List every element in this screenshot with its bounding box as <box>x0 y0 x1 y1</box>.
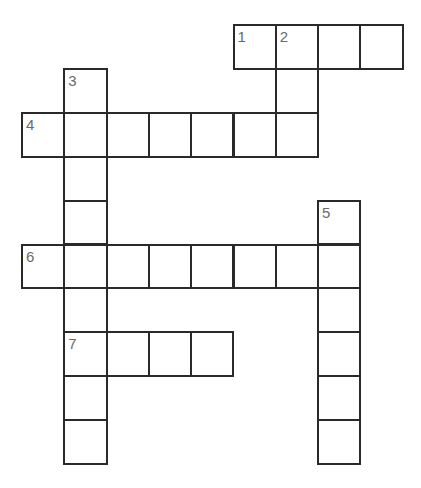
crossword-grid: 1237456 <box>0 0 421 488</box>
clue-number: 4 <box>26 117 34 132</box>
crossword-cell[interactable]: 7 <box>63 331 107 377</box>
crossword-cell[interactable] <box>190 244 234 290</box>
crossword-cell[interactable] <box>190 331 234 377</box>
crossword-cell[interactable] <box>317 331 361 377</box>
clue-number: 6 <box>26 249 34 264</box>
crossword-cell[interactable] <box>317 375 361 421</box>
crossword-cell[interactable] <box>359 24 403 70</box>
crossword-cell[interactable] <box>233 244 277 290</box>
crossword-cell[interactable] <box>317 287 361 333</box>
crossword-cell[interactable] <box>275 68 319 114</box>
crossword-cell[interactable] <box>148 331 192 377</box>
crossword-cell[interactable] <box>106 112 150 158</box>
crossword-cell[interactable] <box>63 244 107 290</box>
crossword-cell[interactable]: 3 <box>63 68 107 114</box>
crossword-cell[interactable] <box>63 112 107 158</box>
crossword-cell[interactable] <box>233 112 277 158</box>
crossword-cell[interactable] <box>63 287 107 333</box>
clue-number: 3 <box>68 73 76 88</box>
crossword-cell[interactable] <box>317 244 361 290</box>
crossword-cell[interactable]: 5 <box>317 200 361 246</box>
crossword-cell[interactable] <box>275 112 319 158</box>
crossword-cell[interactable] <box>106 244 150 290</box>
clue-number: 7 <box>68 336 76 351</box>
crossword-cell[interactable] <box>63 419 107 465</box>
crossword-cell[interactable] <box>148 112 192 158</box>
crossword-cell[interactable] <box>63 375 107 421</box>
crossword-cell[interactable]: 1 <box>233 24 277 70</box>
crossword-cell[interactable] <box>106 331 150 377</box>
crossword-cell[interactable] <box>317 24 361 70</box>
crossword-cell[interactable]: 4 <box>21 112 65 158</box>
crossword-cell[interactable] <box>190 112 234 158</box>
crossword-cell[interactable] <box>317 419 361 465</box>
crossword-cell[interactable] <box>275 244 319 290</box>
crossword-cell[interactable] <box>63 200 107 246</box>
crossword-cell[interactable] <box>148 244 192 290</box>
crossword-cell[interactable]: 6 <box>21 244 65 290</box>
crossword-cell[interactable] <box>63 156 107 202</box>
clue-number: 2 <box>280 29 288 44</box>
clue-number: 5 <box>322 205 330 220</box>
crossword-cell[interactable]: 2 <box>275 24 319 70</box>
clue-number: 1 <box>238 29 246 44</box>
